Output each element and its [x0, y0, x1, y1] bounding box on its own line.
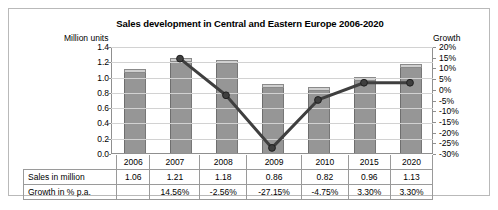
- table-cell: 1.13: [390, 170, 432, 185]
- table-category-header: 2009: [247, 155, 302, 170]
- table-cell: 0.96: [348, 170, 390, 185]
- right-axis-tick-label: 20%: [439, 42, 479, 52]
- left-axis-tick-label: 0.4: [69, 118, 109, 128]
- right-axis-tick-label: -15%: [439, 117, 479, 127]
- table-cell: 1.21: [150, 170, 200, 185]
- growth-marker: [407, 79, 414, 86]
- table-category-header: 2020: [390, 155, 432, 170]
- table-category-header: 2008: [200, 155, 247, 170]
- plot-area: 0.00.20.40.60.81.01.21.4-30%-25%-20%-15%…: [111, 47, 433, 154]
- table-cell: 1.06: [117, 170, 150, 185]
- table-cell: 14.56%: [150, 185, 200, 200]
- table-cell: -27.15%: [247, 185, 302, 200]
- right-axis-tick-mark: [433, 101, 436, 102]
- table-corner-cell: [24, 155, 117, 170]
- right-axis-tick-label: 15%: [439, 53, 479, 63]
- left-axis-tick-label: 0.6: [69, 103, 109, 113]
- right-axis-tick-mark: [433, 111, 436, 112]
- growth-marker: [177, 55, 184, 62]
- growth-marker: [269, 145, 276, 152]
- right-axis-tick-label: 0%: [439, 85, 479, 95]
- table-row: Sales in million1.061.211.180.860.820.96…: [24, 170, 433, 185]
- left-axis-tick-label: 1.2: [69, 57, 109, 67]
- table-category-header: 2015: [348, 155, 390, 170]
- table-cell: 0.82: [301, 170, 348, 185]
- left-axis-tick-label: 1.4: [69, 42, 109, 52]
- growth-line: [180, 59, 410, 148]
- data-table: 2006200720082009201020152020Sales in mil…: [23, 155, 433, 200]
- growth-line-series: [111, 47, 433, 154]
- left-axis-tick-label: 0.2: [69, 134, 109, 144]
- table-row-label: Sales in million: [24, 170, 117, 185]
- right-axis-tick-label: -20%: [439, 128, 479, 138]
- right-axis-tick-label: 10%: [439, 63, 479, 73]
- left-axis-tick-label: 1.0: [69, 73, 109, 83]
- table-cell: 3.30%: [390, 185, 432, 200]
- table-cell: 0.86: [247, 170, 302, 185]
- table-category-header: 2007: [150, 155, 200, 170]
- right-axis-tick-mark: [433, 133, 436, 134]
- table-cell: -2.56%: [200, 185, 247, 200]
- right-axis-tick-mark: [433, 58, 436, 59]
- right-axis-tick-label: -5%: [439, 96, 479, 106]
- right-axis-tick-mark: [433, 47, 436, 48]
- table-row: Growth in % p.a.14.56%-2.56%-27.15%-4.75…: [24, 185, 433, 200]
- right-axis-tick-label: 5%: [439, 74, 479, 84]
- left-axis-tick-label: 0.8: [69, 88, 109, 98]
- growth-marker: [361, 79, 368, 86]
- right-axis-tick-mark: [433, 68, 436, 69]
- table-row-categories: 2006200720082009201020152020: [24, 155, 433, 170]
- right-axis-tick-label: -10%: [439, 106, 479, 116]
- growth-marker: [223, 92, 230, 99]
- chart-frame: Sales development in Central and Eastern…: [8, 8, 490, 196]
- data-table-body: 2006200720082009201020152020Sales in mil…: [24, 155, 433, 200]
- table-category-header: 2006: [117, 155, 150, 170]
- right-axis-tick-label: -25%: [439, 138, 479, 148]
- table-category-header: 2010: [301, 155, 348, 170]
- table-cell: 1.18: [200, 170, 247, 185]
- right-axis-tick-mark: [433, 154, 436, 155]
- right-axis-tick-mark: [433, 143, 436, 144]
- chart-title: Sales development in Central and Eastern…: [9, 18, 491, 29]
- right-axis-tick-label: -30%: [439, 149, 479, 159]
- table-row-label: Growth in % p.a.: [24, 185, 117, 200]
- table-cell: -4.75%: [301, 185, 348, 200]
- right-axis-tick-mark: [433, 122, 436, 123]
- table-cell: [117, 185, 150, 200]
- table-cell: 3.30%: [348, 185, 390, 200]
- right-axis-tick-mark: [433, 79, 436, 80]
- right-axis-tick-mark: [433, 90, 436, 91]
- growth-marker: [315, 97, 322, 104]
